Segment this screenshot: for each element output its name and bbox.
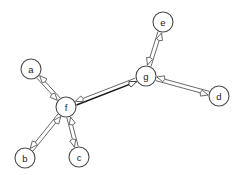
node-e[interactable]: e: [153, 12, 173, 32]
node-g[interactable]: g: [136, 66, 156, 86]
nodes-layer: abcdefg: [15, 12, 229, 168]
node-c-label: c: [77, 152, 82, 163]
edge-c-f-arrow-to-f: [69, 117, 75, 125]
node-f-label: f: [65, 102, 68, 113]
edge-c-f-arrow-to-c: [70, 139, 76, 147]
edge-f-g[interactable]: [75, 78, 136, 105]
edge-c-f[interactable]: [67, 117, 78, 147]
edges-layer: [30, 31, 209, 151]
edge-a-f[interactable]: [37, 76, 61, 101]
graph-canvas: abcdefg: [0, 0, 239, 175]
edge-f-g-shaft-forward: [76, 82, 136, 105]
node-d-label: d: [216, 91, 221, 102]
node-c[interactable]: c: [69, 147, 89, 167]
node-d[interactable]: d: [209, 86, 229, 106]
edge-g-d[interactable]: [156, 76, 210, 96]
node-e-label: e: [160, 17, 165, 28]
node-a-label: a: [28, 64, 34, 75]
edge-f-g-arrow-to-f: [75, 96, 83, 102]
node-g-label: g: [143, 71, 148, 82]
node-f[interactable]: f: [56, 97, 76, 117]
node-b-label: b: [22, 153, 27, 164]
node-a[interactable]: a: [21, 59, 41, 79]
edge-f-g-shaft-reverse: [75, 78, 135, 101]
edge-g-e[interactable]: [147, 31, 163, 66]
node-b[interactable]: b: [15, 148, 35, 168]
edge-f-g-arrow-to-g: [129, 81, 137, 87]
edge-b-f[interactable]: [30, 114, 60, 151]
graph-diagram: abcdefg: [0, 0, 239, 175]
